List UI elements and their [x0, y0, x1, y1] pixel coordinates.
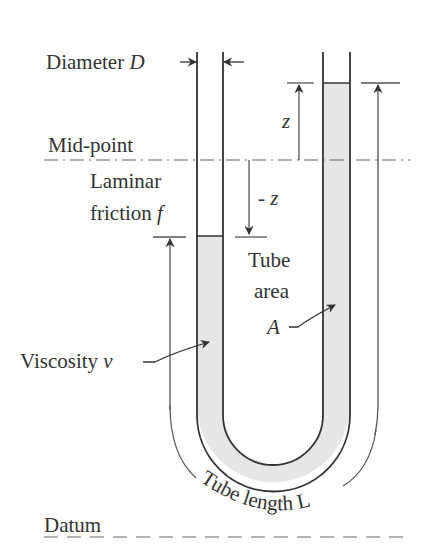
tube-label: Tube [248, 248, 290, 272]
diameter-label: Diameter D [46, 50, 145, 74]
z-label: z [281, 109, 290, 133]
tube-length-arc-left [170, 405, 196, 478]
datum-label: Datum [44, 513, 101, 537]
area-symbol-label: A [265, 315, 280, 339]
tube-length-arrow-right [375, 85, 378, 435]
area-label: area [254, 279, 290, 303]
laminar-label: Laminar [90, 169, 161, 193]
neg-z-label: - z [258, 186, 278, 210]
u-tube-diagram: Diameter D Mid-point Laminar friction f … [0, 0, 425, 557]
tube-length-arc-right [343, 430, 376, 486]
mid-point-label: Mid-point [48, 133, 133, 157]
friction-label: friction f [90, 201, 166, 225]
viscosity-label: Viscosity ν [20, 349, 113, 373]
